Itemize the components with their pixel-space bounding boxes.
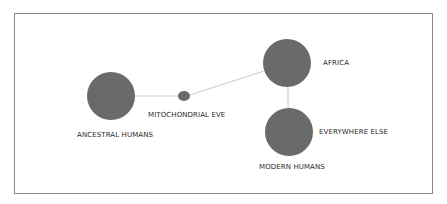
label-ancestral-humans: ANCESTRAL HUMANS	[77, 131, 153, 140]
label-africa: AFRICA	[323, 59, 349, 68]
node-africa	[263, 39, 311, 87]
edge-eve-to-africa	[190, 71, 264, 95]
node-mitochondrial-eve	[178, 91, 190, 101]
diagram-canvas	[0, 0, 447, 204]
node-ancestral-humans	[87, 72, 135, 120]
label-modern-humans: MODERN HUMANS	[259, 163, 325, 172]
label-everywhere-else: EVERYWHERE ELSE	[319, 128, 388, 137]
label-mitochondrial-eve: MITOCHONDRIAL EVE	[148, 111, 225, 120]
node-modern-humans	[265, 108, 313, 156]
